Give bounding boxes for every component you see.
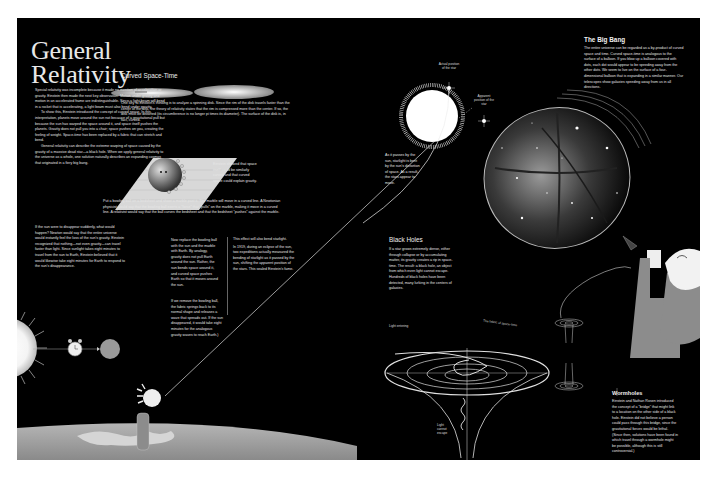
actual-star-icon [443, 82, 455, 94]
big-bang-text: The entire universe can be regarded as a… [584, 46, 684, 91]
left-sun-illustration [17, 312, 47, 384]
curved-space-caption: Einstein showed that space itself could … [213, 162, 259, 184]
spinning-disk-text: One key to Einstein's thinking is to ana… [121, 101, 293, 123]
apparent-star-icon [478, 115, 490, 127]
starlight-body: In 1919, during an eclipse of the sun, t… [233, 245, 295, 273]
black-holes-text: If a star grows extremely dense, either … [389, 247, 455, 292]
starlight-lead: This effect will also bend starlight. [233, 237, 295, 243]
wormholes-heading: Wormholes [612, 390, 642, 396]
light-entering-label: Light entering [389, 324, 408, 328]
apparent-position-label: Apparent position of the star [472, 94, 496, 106]
universe-balloon-illustration [468, 90, 651, 265]
sun-bends-starlight-caption: As it passes by the sun, starlight is be… [385, 153, 421, 187]
earth-horizon-illustration [17, 423, 357, 460]
black-holes-heading: Black Holes [389, 236, 423, 243]
sun-disappear-text: If the sun were to disappear suddenly, w… [35, 225, 125, 270]
small-black-hole-diagrams [555, 267, 631, 390]
big-bang-heading: The Big Bang [584, 36, 625, 43]
black-hole-funnel-illustration [385, 348, 549, 460]
small-earth-illustration [100, 339, 120, 359]
infographic-page: General Relativity Special relativity wa… [17, 18, 700, 460]
remove-bowling-ball-text: If we remove the bowling ball, the fabri… [171, 299, 223, 338]
big-sun-illustration [401, 85, 463, 147]
divider [227, 237, 228, 315]
intro-paragraph-3: General relativity can describe the extr… [35, 144, 167, 166]
curved-space-time-heading: Curved Space-Time [121, 72, 178, 79]
light-cannot-escape-label: Light cannot escape [437, 423, 449, 435]
replace-bowling-ball-text: Now replace the bowling ball with the su… [171, 238, 219, 288]
alarm-clock-illustration [68, 339, 82, 356]
actual-position-label: Actual position of the star [438, 62, 460, 70]
page-title: General Relativity [31, 39, 131, 87]
wormholes-text: Einstein and Nathan Rosen introduced the… [612, 399, 678, 455]
starlight-text: This effect will also bend starlight. In… [233, 237, 295, 273]
title-line-2: Relativity [31, 63, 131, 87]
intro-text: Special relativity was incomplete becaus… [35, 88, 167, 166]
bedsheet-text: Put a bowling ball on a bedsheet and sho… [103, 199, 283, 216]
einstein-figure-right [630, 249, 700, 358]
